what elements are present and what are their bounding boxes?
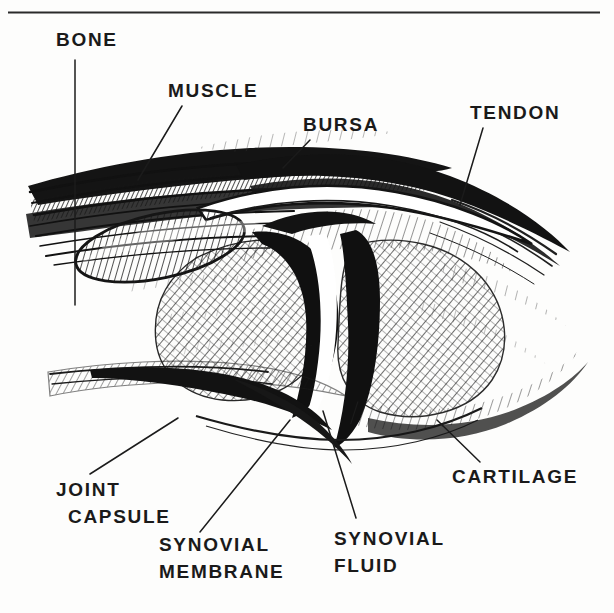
synovial-joint-illustration: BONE MUSCLE BURSA TENDON JOINT CAPSULE S… — [0, 0, 614, 613]
label-muscle: MUSCLE — [168, 80, 258, 101]
label-bursa: BURSA — [303, 114, 379, 135]
label-joint-capsule: JOINT CAPSULE — [56, 479, 171, 527]
figure-root: BONE MUSCLE BURSA TENDON JOINT CAPSULE S… — [0, 0, 614, 613]
label-bone: BONE — [56, 29, 118, 50]
leader-joint-capsule — [90, 418, 178, 474]
label-cartilage: CARTILAGE — [452, 466, 578, 487]
label-synovial-membrane: SYNOVIAL MEMBRANE — [159, 534, 285, 582]
label-tendon: TENDON — [470, 102, 560, 123]
label-synovial-fluid: SYNOVIAL FLUID — [334, 528, 451, 576]
anatomy-group — [26, 130, 588, 464]
